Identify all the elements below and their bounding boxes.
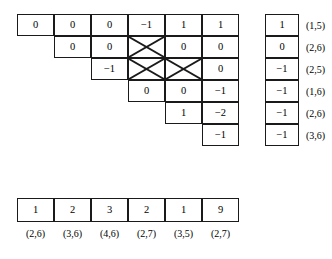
right-column-label-5: (2,6) xyxy=(306,102,332,124)
matrix-cell-value: −1 xyxy=(215,86,226,97)
right-column-label-1: (1,5) xyxy=(306,14,332,36)
matrix-cell-value: 0 xyxy=(181,86,186,97)
cross-out-icon xyxy=(129,37,164,57)
matrix-cell-crossed-r3-c5 xyxy=(165,58,202,80)
matrix-cell-r4-c4: 0 xyxy=(128,80,165,102)
bottom-table-cell-6: 9 xyxy=(202,198,239,222)
bottom-table-label-4: (2,7) xyxy=(128,224,165,242)
matrix-cell-r4-c6: −1 xyxy=(202,80,239,102)
matrix-cell-r3-c6: 0 xyxy=(202,58,239,80)
right-column-value: −1 xyxy=(276,130,287,141)
right-column-label-3: (2,5) xyxy=(306,58,332,80)
right-column-value: −1 xyxy=(276,108,287,119)
matrix-cell-value: 0 xyxy=(70,42,75,53)
bottom-table-label-1: (2,6) xyxy=(17,224,54,242)
triangular-staircase-matrix: 000−1110000−1000−11−2−1 xyxy=(17,14,237,148)
bottom-table-cell-3: 3 xyxy=(91,198,128,222)
matrix-cell-crossed-r2-c4 xyxy=(128,36,165,58)
matrix-cell-r6-c6: −1 xyxy=(202,124,239,146)
matrix-cell-value: 1 xyxy=(181,20,186,31)
matrix-cell-crossed-r3-c4 xyxy=(128,58,165,80)
bottom-table-label-2: (3,6) xyxy=(54,224,91,242)
matrix-cell-value: −1 xyxy=(104,64,115,75)
right-column-value: 0 xyxy=(279,42,284,53)
bottom-table-value: 2 xyxy=(144,205,149,216)
bottom-table-label-5: (3,5) xyxy=(165,224,202,242)
matrix-cell-r2-c6: 0 xyxy=(202,36,239,58)
matrix-cell-r2-c5: 0 xyxy=(165,36,202,58)
matrix-cell-r2-c3: 0 xyxy=(91,36,128,58)
bottom-table-label-3: (4,6) xyxy=(91,224,128,242)
matrix-cell-r1-c4: −1 xyxy=(128,14,165,36)
matrix-cell-r5-c5: 1 xyxy=(165,102,202,124)
matrix-cell-value: 0 xyxy=(181,42,186,53)
matrix-cell-value: 0 xyxy=(70,20,75,31)
figure-canvas: 000−1110000−1000−11−2−1 1(1,5)0(2,6)−1(2… xyxy=(0,0,332,259)
matrix-cell-value: 0 xyxy=(218,42,223,53)
matrix-cell-r1-c1: 0 xyxy=(17,14,54,36)
right-column-cell-6: −1 xyxy=(265,124,299,146)
matrix-cell-r3-c3: −1 xyxy=(91,58,128,80)
matrix-cell-value: 0 xyxy=(218,64,223,75)
matrix-cell-value: 0 xyxy=(33,20,38,31)
matrix-cell-value: −1 xyxy=(215,130,226,141)
bottom-table-cell-4: 2 xyxy=(128,198,165,222)
matrix-cell-r1-c5: 1 xyxy=(165,14,202,36)
matrix-cell-value: 0 xyxy=(144,86,149,97)
matrix-cell-r1-c3: 0 xyxy=(91,14,128,36)
right-column-label-6: (3,6) xyxy=(306,124,332,146)
bottom-table-value: 1 xyxy=(181,205,186,216)
cross-out-icon xyxy=(129,59,164,79)
right-column-cell-5: −1 xyxy=(265,102,299,124)
right-column-label-2: (2,6) xyxy=(306,36,332,58)
matrix-cell-value: 1 xyxy=(218,20,223,31)
right-column-cell-2: 0 xyxy=(265,36,299,58)
bottom-table-cell-5: 1 xyxy=(165,198,202,222)
bottom-table-cell-1: 1 xyxy=(17,198,54,222)
matrix-cell-r1-c6: 1 xyxy=(202,14,239,36)
matrix-cell-r5-c6: −2 xyxy=(202,102,239,124)
right-column-cell-4: −1 xyxy=(265,80,299,102)
right-column-value: 1 xyxy=(279,20,284,31)
right-column-cell-1: 1 xyxy=(265,14,299,36)
bottom-table-value: 9 xyxy=(218,205,223,216)
right-column-value: −1 xyxy=(276,64,287,75)
matrix-cell-value: 1 xyxy=(181,108,186,119)
bottom-table-value: 3 xyxy=(107,205,112,216)
right-column-value: −1 xyxy=(276,86,287,97)
right-column-cell-3: −1 xyxy=(265,58,299,80)
bottom-table-value: 2 xyxy=(70,205,75,216)
bottom-table-value: 1 xyxy=(33,205,38,216)
matrix-cell-r2-c2: 0 xyxy=(54,36,91,58)
matrix-cell-value: 0 xyxy=(107,20,112,31)
matrix-cell-value: −1 xyxy=(141,20,152,31)
matrix-cell-r1-c2: 0 xyxy=(54,14,91,36)
matrix-cell-value: 0 xyxy=(107,42,112,53)
cross-out-icon xyxy=(166,59,201,79)
matrix-cell-r4-c5: 0 xyxy=(165,80,202,102)
right-vector-column: 1(1,5)0(2,6)−1(2,5)−1(1,6)−1(2,6)−1(3,6) xyxy=(265,14,331,154)
bottom-table-label-6: (2,7) xyxy=(202,224,239,242)
matrix-cell-value: −2 xyxy=(215,108,226,119)
bottom-row-table: 1(2,6)2(3,6)3(4,6)2(2,7)1(3,5)9(2,7) xyxy=(17,198,237,246)
bottom-table-cell-2: 2 xyxy=(54,198,91,222)
right-column-label-4: (1,6) xyxy=(306,80,332,102)
